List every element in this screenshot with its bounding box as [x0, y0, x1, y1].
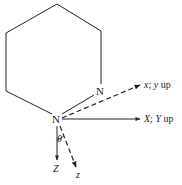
Z-axis-label: Z [53, 163, 59, 174]
atom-n-bottom: N [52, 113, 60, 125]
hexagon-ring [6, 4, 101, 114]
theta-label: θ [57, 133, 62, 144]
coordinate-diagram: N N x; y up X; Y up Z z θ [0, 0, 182, 185]
atom-n-right: N [96, 85, 104, 97]
x-axis-label: x; y up [143, 79, 171, 90]
z-axis-label: z [75, 169, 80, 180]
X-axis-label: X; Y up [143, 113, 173, 124]
z-axis-dashed-arrow [60, 126, 76, 167]
